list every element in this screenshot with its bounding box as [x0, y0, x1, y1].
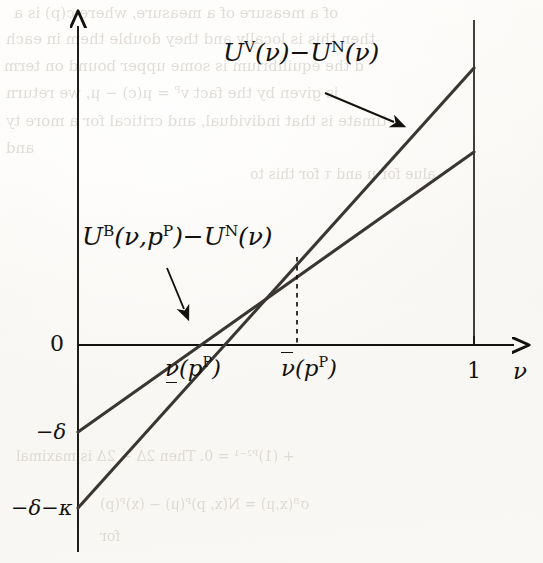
ub-arg-superscript: P: [163, 222, 173, 240]
annotation-arrow-steep: [325, 93, 394, 122]
un-arg: (ν): [345, 38, 379, 67]
un-letter: U: [310, 38, 331, 67]
x-tick-upper-superscript: P: [318, 354, 328, 370]
y-tick-minus-delta: −δ: [36, 420, 66, 444]
x-tick-upper-nu: ν(pP): [281, 355, 337, 381]
uv-arg: (ν): [255, 38, 289, 67]
ub-arg: (ν,p: [114, 222, 163, 251]
nu-overbar-glyph: ν: [281, 355, 295, 381]
curve-ub-minus-un: [78, 152, 474, 432]
label-ub-minus-un: UB(ν,pP)−UN(ν): [82, 222, 273, 251]
x-tick-lower-close: ): [212, 355, 221, 381]
x-axis-label: ν: [513, 358, 527, 384]
x-tick-lower-paren: (p: [179, 355, 203, 381]
x-tick-lower-nu: ν(pP): [165, 355, 221, 382]
ub-un-letter: U: [204, 222, 225, 251]
x-tick-upper-paren: (p: [295, 355, 319, 381]
label-uv-minus-un: UV(ν)−UN(ν): [223, 38, 379, 67]
curve-uv-minus-un: [78, 68, 474, 508]
nu-underbar-glyph: ν: [165, 355, 179, 382]
ub-letter: U: [82, 222, 103, 251]
ub-minus: −: [183, 222, 204, 251]
ub-arg-close: ): [173, 222, 183, 251]
ub-un-arg: (ν): [238, 222, 272, 251]
uv-minus: −: [289, 38, 310, 67]
un-superscript: N: [331, 38, 344, 56]
y-tick-zero: 0: [50, 331, 64, 356]
uv-superscript: V: [244, 38, 255, 56]
uv-letter: U: [223, 38, 244, 67]
x-tick-one: 1: [467, 358, 481, 383]
ub-un-superscript: N: [225, 222, 238, 240]
annotation-arrow-flat: [167, 268, 184, 309]
x-tick-lower-superscript: P: [202, 354, 212, 370]
ub-superscript: B: [103, 222, 114, 240]
y-tick-minus-delta-minus-kappa: −δ−κ: [11, 496, 73, 520]
diagram-canvas: [0, 0, 543, 563]
figure-container: of a measure of a measure, where c(p) is…: [0, 0, 543, 563]
x-tick-upper-close: ): [328, 355, 337, 381]
